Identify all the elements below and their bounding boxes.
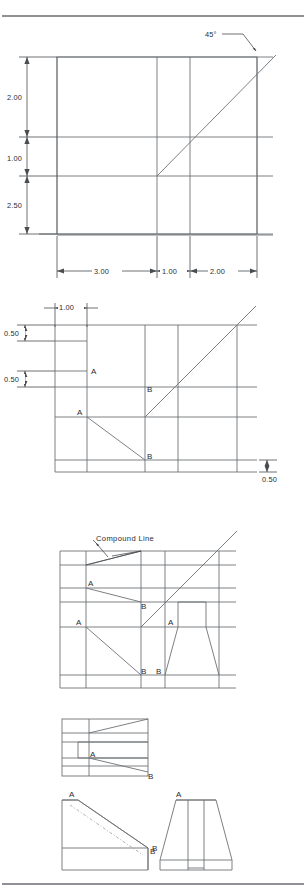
figure2-label-a1: A xyxy=(91,367,97,376)
figure6-label-a: A xyxy=(176,790,182,799)
figure5-pictorial-side: A B xyxy=(62,790,157,870)
figure4-label-a: A xyxy=(90,750,96,759)
figure1-dim-2-00-h: 2.00 xyxy=(210,267,225,276)
figure2-label-a2: A xyxy=(77,408,83,417)
figure1-dim-1-00-h: 1.00 xyxy=(162,267,177,276)
figure6-pictorial-front: A B xyxy=(150,790,232,870)
figure1-angle-label: 45° xyxy=(205,30,217,39)
figure4-label-b: B xyxy=(148,772,153,781)
figure2-dim-0-50-b: 0.50 xyxy=(4,375,19,384)
figure3-label-b1: B xyxy=(141,602,146,611)
figure3-compound-line-note: Compound Line xyxy=(96,534,154,543)
figure3-compound-line-view: Compound Line A B A A B B xyxy=(60,531,237,688)
figure3-label-a1: A xyxy=(88,579,94,588)
figure2-dim-1-00: 1.00 xyxy=(59,303,74,312)
figure4-side-view: A B xyxy=(62,719,153,781)
figure2-front-view: A B A B 1.00 0.50 0.50 0.50 xyxy=(3,302,277,484)
figure5-label-a: A xyxy=(69,790,75,799)
figure1-dim-3-00: 3.00 xyxy=(94,267,109,276)
figure3-label-b2: B xyxy=(141,667,146,676)
figure2-label-b2: B xyxy=(147,452,152,461)
figure1-dim-1-00: 1.00 xyxy=(7,154,22,163)
figure2-label-b1: B xyxy=(147,385,152,394)
figure2-dim-0-50-a: 0.50 xyxy=(4,329,19,338)
figure3-label-a3: A xyxy=(168,618,174,627)
drawing-page: 45° 2.00 1.00 2.50 xyxy=(0,0,306,893)
figure3-label-a2: A xyxy=(76,618,82,627)
figure1-dim-2-00: 2.00 xyxy=(7,93,22,102)
figure6-label-b: B xyxy=(150,847,155,856)
figure2-dim-0-50-right: 0.50 xyxy=(262,475,277,484)
figure3-label-b3: B xyxy=(156,667,161,676)
figure1-top-view: 45° 2.00 1.00 2.50 xyxy=(7,30,276,278)
figure1-dim-2-50: 2.50 xyxy=(7,201,22,210)
